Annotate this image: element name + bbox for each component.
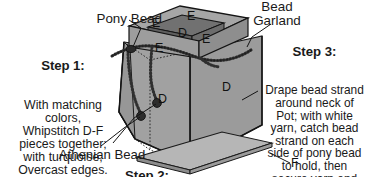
piece-letter-lid-top-right: E (187, 9, 195, 23)
step-3-block: Step 3: Drape bead strand around neck of… (254, 20, 375, 177)
piece-letter-body-side: D (222, 80, 231, 94)
pony-bead-top (126, 45, 136, 52)
step-1-heading: Step 1: (0, 59, 126, 73)
step-1-block: Step 1: With matching colors, Whipstitch… (0, 33, 126, 177)
piece-letter-rim-inner: D (178, 26, 187, 40)
step-2-heading: Step 2: (107, 169, 187, 177)
callout-pony-bead: Pony Bead (52, 12, 162, 26)
piece-letter-lid-front-right: E (202, 32, 210, 46)
piece-letter-body-front: D (158, 92, 167, 106)
piece-letter-lid-front-left: E (155, 41, 163, 55)
step-3-heading: Step 3: (254, 45, 375, 59)
diagram-page: E E D E E D D F Pony Bead Bead Garland A… (0, 0, 375, 177)
step-1-body: With matching colors, Whipstitch D-F pie… (0, 99, 126, 177)
step-3-body: Drape bead strand around neck of Pot; wi… (254, 84, 375, 177)
